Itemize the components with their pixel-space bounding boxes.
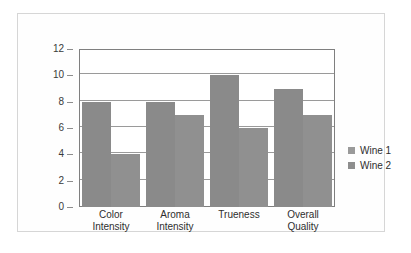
- x-category-label-line: Aroma: [143, 209, 207, 221]
- y-tick-mark: [67, 154, 73, 155]
- legend-label: Wine 2: [360, 161, 391, 171]
- y-tick-mark: [67, 128, 73, 129]
- y-tick-mark: [67, 207, 73, 208]
- legend-swatch-icon: [348, 162, 355, 169]
- x-category-label: OverallQuality: [271, 209, 335, 233]
- x-category-label-line: Color: [79, 209, 143, 221]
- y-tick-label: 6: [58, 123, 64, 133]
- bar-group: [82, 49, 140, 207]
- legend-item[interactable]: Wine 1: [348, 144, 404, 157]
- x-category-label-line: Quality: [271, 221, 335, 233]
- y-tick-label: 8: [58, 97, 64, 107]
- x-category-label-line: Intensity: [143, 221, 207, 233]
- bar: [111, 154, 140, 207]
- x-category-label: ColorIntensity: [79, 209, 143, 233]
- x-category-label: AromaIntensity: [143, 209, 207, 233]
- bar-group: [146, 49, 204, 207]
- bar: [146, 102, 175, 207]
- y-tick-label: 0: [58, 202, 64, 212]
- x-axis-categories: ColorIntensityAromaIntensityTruenessOver…: [79, 209, 335, 243]
- bar: [175, 115, 204, 207]
- bar: [239, 128, 268, 207]
- bars-layer: [79, 49, 335, 207]
- x-category-label-line: Trueness: [207, 209, 271, 221]
- bar-group: [274, 49, 332, 207]
- chart-legend: Wine 1Wine 2: [348, 144, 404, 174]
- y-tick-mark: [67, 181, 73, 182]
- y-tick-mark: [67, 102, 73, 103]
- y-tick-label: 2: [58, 176, 64, 186]
- bar: [303, 115, 332, 207]
- y-tick-label: 12: [53, 44, 64, 54]
- y-tick-label: 4: [58, 149, 64, 159]
- legend-swatch-icon: [348, 147, 355, 154]
- bar-group: [210, 49, 268, 207]
- y-tick-mark: [67, 49, 73, 50]
- y-tick-label: 10: [53, 70, 64, 80]
- x-category-label-line: Intensity: [79, 221, 143, 233]
- bar: [274, 89, 303, 208]
- y-axis: 121086420: [35, 42, 73, 214]
- legend-item[interactable]: Wine 2: [348, 159, 404, 172]
- x-category-label-line: Overall: [271, 209, 335, 221]
- bar: [82, 102, 111, 207]
- chart-outer-frame: 121086420 ColorIntensityAromaIntensityTr…: [17, 13, 385, 232]
- x-category-label: Trueness: [207, 209, 271, 221]
- legend-label: Wine 1: [360, 146, 391, 156]
- y-tick-mark: [67, 75, 73, 76]
- bar: [210, 75, 239, 207]
